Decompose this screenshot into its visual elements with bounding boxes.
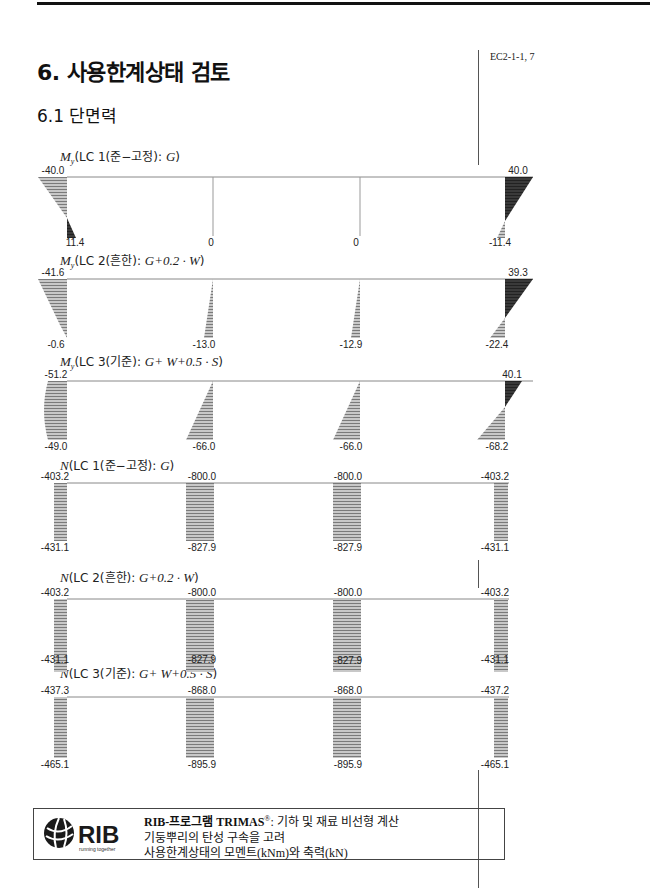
diagram-my-lc2 — [38, 279, 533, 338]
value-label: -465.1 — [481, 759, 509, 770]
value-label: -403.2 — [481, 471, 509, 482]
diagram-my-lc1 — [38, 177, 533, 238]
diagram-n-lc2 — [54, 599, 509, 672]
value-label: -800.0 — [334, 471, 362, 482]
value-label: 0 — [208, 237, 214, 248]
value-label: -40.0 — [42, 165, 65, 176]
diagram-my-lc3 — [44, 381, 533, 440]
value-label: -0.6 — [47, 339, 64, 350]
value-label: -11.4 — [489, 237, 511, 248]
logo-text: RIB — [78, 821, 119, 848]
value-label: -800.0 — [188, 471, 216, 482]
rib-globe-icon: RIB running together — [42, 816, 138, 856]
value-label: -403.2 — [41, 587, 69, 598]
logo-tagline: running together — [79, 846, 116, 852]
value-label: -403.2 — [481, 587, 509, 598]
value-label: -403.2 — [41, 471, 69, 482]
value-label: -895.9 — [334, 759, 362, 770]
value-label: -49.0 — [45, 441, 68, 452]
value-label: -868.0 — [188, 685, 216, 696]
value-label: -800.0 — [188, 587, 216, 598]
value-label: 0 — [353, 237, 359, 248]
value-label: -827.9 — [188, 654, 216, 665]
value-label: -827.9 — [334, 542, 362, 553]
value-label: -66.0 — [340, 441, 363, 452]
value-label: -868.0 — [334, 685, 362, 696]
value-label: -827.9 — [188, 542, 216, 553]
value-label: -431.1 — [41, 542, 69, 553]
value-label: -12.9 — [340, 339, 363, 350]
value-label: -41.6 — [42, 267, 65, 278]
value-label: 40.1 — [502, 369, 521, 380]
value-label: -431.1 — [481, 654, 509, 665]
value-label: -51.2 — [45, 369, 68, 380]
force-diagrams — [0, 0, 650, 888]
value-label: -68.2 — [486, 441, 509, 452]
diagram-n-lc1 — [54, 483, 509, 541]
footer-text: RIB-프로그램 TRIMAS®: 기하 및 재료 비선형 계산 기둥뿌리의 탄… — [144, 811, 399, 862]
value-label: 39.3 — [508, 267, 527, 278]
value-label: -13.0 — [193, 339, 216, 350]
rib-logo: RIB running together — [42, 816, 138, 856]
value-label: -22.4 — [486, 339, 509, 350]
value-label: 11.4 — [66, 237, 85, 248]
value-label: -895.9 — [188, 759, 216, 770]
value-label: -465.1 — [41, 759, 69, 770]
diagram-n-lc3 — [54, 697, 509, 758]
value-label: -800.0 — [334, 587, 362, 598]
value-label: -437.2 — [481, 685, 509, 696]
footer-caption-box: RIB running together RIB-프로그램 TRIMAS®: 기… — [33, 808, 505, 860]
value-label: -437.3 — [41, 685, 69, 696]
value-label: 40.0 — [508, 165, 527, 176]
value-label: -431.1 — [41, 654, 69, 665]
value-label: -66.0 — [193, 441, 216, 452]
value-label: -827.9 — [334, 655, 362, 666]
value-label: -431.1 — [481, 542, 509, 553]
